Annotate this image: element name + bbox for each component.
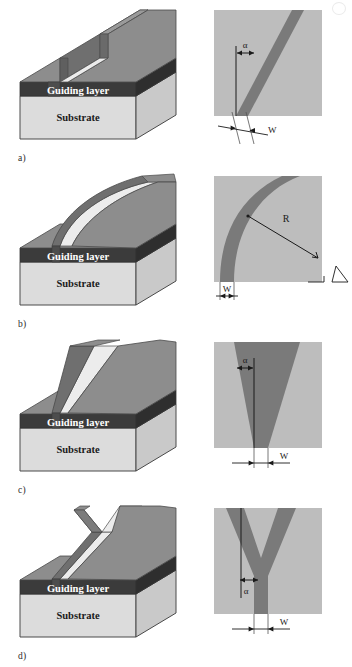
topview-y-branch: α W [196, 502, 352, 662]
alpha-label: α [243, 355, 248, 365]
panel-label-a: a) [18, 153, 26, 163]
width-label: W [280, 451, 289, 461]
width-label: W [223, 284, 232, 294]
substrate-label: Substrate [56, 610, 100, 621]
panel-label-b: b) [18, 319, 26, 329]
width-label: W [280, 617, 289, 627]
waveguide-geometries-figure: Guiding layer Substrate α [0, 0, 352, 667]
ridge-waveguide-3d-d: Guiding layer Substrate [8, 502, 186, 662]
panel-label-c: c) [18, 485, 26, 495]
ridge-waveguide-3d-c: Guiding layer Substrate [8, 336, 186, 496]
guiding-layer-label: Guiding layer [47, 85, 109, 96]
topview-curved-bend: R W [196, 170, 352, 330]
guiding-layer-label: Guiding layer [47, 583, 109, 594]
guiding-layer-label: Guiding layer [47, 251, 109, 262]
ridge-waveguide-3d-b: Guiding layer Substrate [8, 170, 186, 330]
substrate-label: Substrate [56, 112, 100, 123]
substrate-label: Substrate [56, 278, 100, 289]
substrate-label: Substrate [56, 444, 100, 455]
panel-b: Guiding layer Substrate R [0, 166, 352, 333]
radius-label: R [283, 213, 290, 224]
ridge-waveguide-3d-a: Guiding layer Substrate [8, 4, 186, 164]
topview-straight-tilted: α W [196, 4, 352, 164]
guiding-layer-label: Guiding layer [47, 417, 109, 428]
panel-d: Guiding layer Substrate α [0, 498, 352, 665]
width-label: W [268, 125, 277, 135]
alpha-label: α [244, 586, 249, 596]
alpha-label: α [243, 40, 248, 50]
panel-label-d: d) [18, 651, 26, 661]
topview-taper: α W [196, 336, 352, 496]
panel-a: Guiding layer Substrate α [0, 0, 352, 167]
panel-c: Guiding layer Substrate α [0, 332, 352, 499]
